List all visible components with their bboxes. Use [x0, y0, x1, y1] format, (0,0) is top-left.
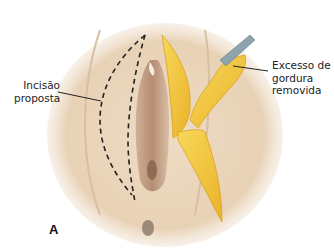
anatomical-illustration: Incisão proposta Excesso de gordura remo… — [0, 0, 334, 252]
label-proposed-incision: Incisão proposta — [14, 79, 60, 104]
label-removed-fat: Excesso de gordura removida — [272, 59, 331, 97]
illustration-drawing — [0, 0, 334, 252]
panel-letter: A — [49, 222, 58, 237]
